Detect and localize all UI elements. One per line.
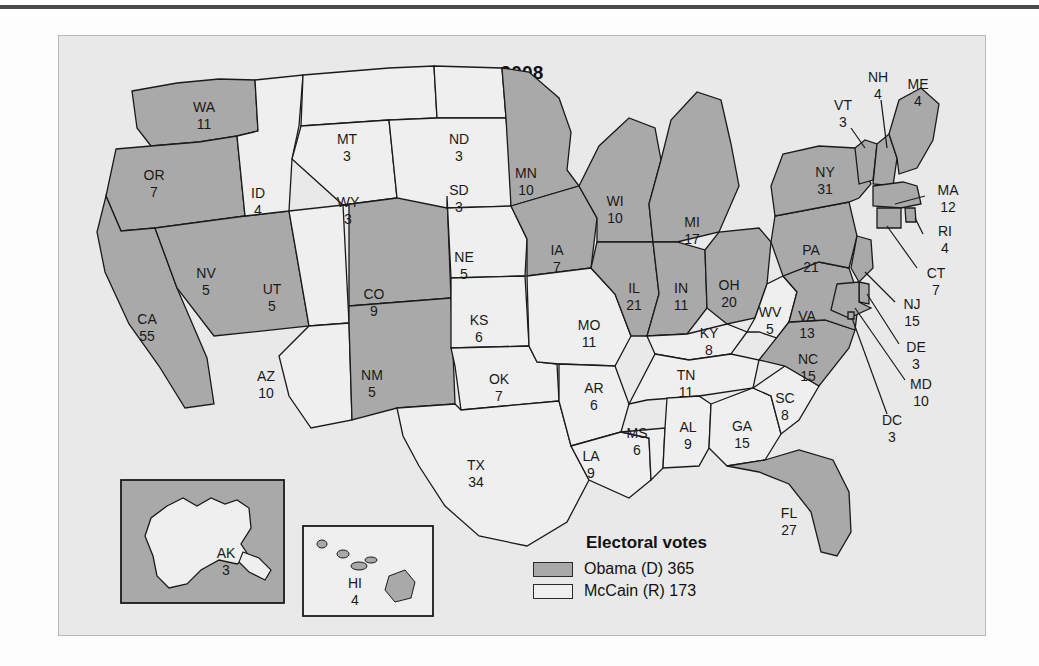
state-MA xyxy=(873,182,921,208)
state-AZ xyxy=(279,323,352,428)
state-code-ND: ND xyxy=(449,131,469,147)
state-votes-NY: 31 xyxy=(817,181,833,197)
state-code-PA: PA xyxy=(802,242,820,258)
state-label-DE: DE3 xyxy=(906,339,925,372)
state-votes-HI: 4 xyxy=(351,592,359,608)
state-code-NJ: NJ xyxy=(903,296,920,312)
hawaii-inset xyxy=(303,526,433,616)
state-label-RI: RI4 xyxy=(938,223,952,256)
state-votes-TX: 34 xyxy=(468,474,484,490)
state-OR xyxy=(106,136,245,231)
us-electoral-map: .s-obama { fill: #a9a9a9; stroke: #1a1a1… xyxy=(59,36,987,637)
state-votes-WV: 5 xyxy=(766,321,774,337)
state-votes-WY: 3 xyxy=(344,211,352,227)
state-votes-ME: 4 xyxy=(914,93,922,109)
hawaii-island-molokai xyxy=(365,557,377,563)
state-code-NM: NM xyxy=(361,367,383,383)
hawaii-inset-box xyxy=(303,526,433,616)
state-code-DC: DC xyxy=(882,412,902,428)
state-CT xyxy=(877,208,901,228)
leader-line-RI xyxy=(915,218,923,234)
state-code-VT: VT xyxy=(834,97,852,113)
state-votes-ID: 4 xyxy=(254,202,262,218)
state-KS xyxy=(451,276,529,348)
state-votes-DE: 3 xyxy=(912,356,920,372)
state-TX xyxy=(397,401,589,546)
hawaii-island-kauai xyxy=(317,540,327,548)
state-code-NV: NV xyxy=(196,265,216,281)
state-code-ME: ME xyxy=(908,76,929,92)
state-code-IL: IL xyxy=(628,280,640,296)
state-votes-MA: 12 xyxy=(940,199,956,215)
state-NM xyxy=(349,298,455,420)
state-votes-MN: 10 xyxy=(518,182,534,198)
state-code-WI: WI xyxy=(606,193,623,209)
state-label-NJ: NJ15 xyxy=(903,296,920,329)
state-votes-MD: 10 xyxy=(913,393,929,409)
state-votes-NM: 5 xyxy=(368,384,376,400)
state-votes-TN: 11 xyxy=(679,384,694,400)
state-votes-OK: 7 xyxy=(495,388,503,404)
state-code-MO: MO xyxy=(578,317,601,333)
state-votes-MT: 3 xyxy=(343,148,351,164)
state-code-KS: KS xyxy=(470,312,489,328)
legend-swatch-obama xyxy=(533,562,573,577)
state-code-DE: DE xyxy=(906,339,925,355)
state-code-LA: LA xyxy=(582,448,600,464)
state-votes-VA: 13 xyxy=(799,325,815,341)
state-code-VA: VA xyxy=(798,308,816,324)
legend-label-obama: Obama (D) 365 xyxy=(584,560,694,578)
legend-swatch-mccain xyxy=(533,584,573,599)
state-code-AZ: AZ xyxy=(257,368,275,384)
state-code-WY: WY xyxy=(337,194,360,210)
state-votes-WI: 10 xyxy=(607,210,623,226)
state-votes-SC: 8 xyxy=(781,407,789,423)
state-code-AR: AR xyxy=(584,380,603,396)
state-label-DC: DC3 xyxy=(882,412,902,445)
state-label-IL: IL21 xyxy=(626,280,642,313)
state-label-IN: IN11 xyxy=(674,280,689,313)
state-label-VT: VT3 xyxy=(834,97,852,130)
state-code-MD: MD xyxy=(910,376,932,392)
state-label-VA: VA13 xyxy=(798,308,816,341)
state-label-NC: NC15 xyxy=(798,351,818,384)
hawaii-island-maui xyxy=(351,562,367,570)
legend-title: Electoral votes xyxy=(586,533,833,553)
state-label-PA: PA21 xyxy=(802,242,820,275)
state-votes-ND: 3 xyxy=(455,148,463,164)
state-label-NY: NY31 xyxy=(815,164,835,197)
state-DE xyxy=(859,282,869,304)
state-votes-AZ: 10 xyxy=(258,385,274,401)
state-label-GA: GA15 xyxy=(732,418,753,451)
state-label-NH: NH4 xyxy=(868,69,888,102)
state-MT xyxy=(301,66,437,126)
state-code-OK: OK xyxy=(489,371,510,387)
state-RI xyxy=(905,208,916,222)
state-label-TX: TX34 xyxy=(467,457,486,490)
state-label-MI: MI17 xyxy=(684,214,700,247)
state-label-AZ: AZ10 xyxy=(257,368,275,401)
state-label-MD: MD10 xyxy=(910,376,932,409)
state-code-FL: FL xyxy=(781,505,798,521)
state-votes-NJ: 15 xyxy=(904,313,920,329)
state-code-MA: MA xyxy=(938,182,960,198)
state-code-MI: MI xyxy=(684,214,700,230)
state-label-MA: MA12 xyxy=(938,182,960,215)
state-code-AL: AL xyxy=(679,419,696,435)
state-code-NC: NC xyxy=(798,351,818,367)
state-votes-MS: 6 xyxy=(633,442,641,458)
state-votes-AL: 9 xyxy=(684,436,692,452)
state-code-WA: WA xyxy=(193,99,216,115)
state-votes-IL: 21 xyxy=(626,297,642,313)
map-legend: Electoral votes Obama (D) 365 McCain (R)… xyxy=(533,533,833,604)
legend-label-mccain: McCain (R) 173 xyxy=(584,582,696,600)
state-votes-IA: 7 xyxy=(553,259,561,275)
state-code-KY: KY xyxy=(700,325,719,341)
page-top-rule xyxy=(0,5,1039,9)
state-votes-AK: 3 xyxy=(222,562,230,578)
state-votes-VT: 3 xyxy=(839,114,847,130)
state-votes-RI: 4 xyxy=(941,240,949,256)
state-label-OH: OH20 xyxy=(719,277,740,310)
state-votes-OR: 7 xyxy=(150,184,158,200)
state-code-NE: NE xyxy=(454,249,473,265)
